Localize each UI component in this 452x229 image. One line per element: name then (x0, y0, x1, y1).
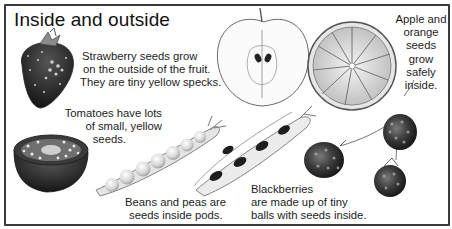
caption-line: seeds (394, 39, 448, 52)
apple-illustration (217, 8, 308, 106)
apple-orange-caption: Apple and orange seeds grow safely insid… (394, 13, 448, 92)
caption-line: seeds inside pods. (125, 209, 226, 222)
page-title: Inside and outside (14, 9, 170, 31)
caption-line: safely (394, 66, 448, 79)
caption-line: grow (394, 53, 448, 66)
caption-line: seeds. (58, 133, 162, 146)
strawberry-caption: Strawberry seeds grow on the outside of … (82, 50, 221, 90)
orange-illustration (308, 22, 396, 110)
caption-line: orange (394, 26, 448, 39)
caption-line: inside. (394, 79, 448, 92)
caption-line: balls with seeds inside. (251, 209, 367, 222)
caption-line: Apple and (394, 13, 448, 26)
caption-line: Beans and peas are (125, 196, 226, 209)
caption-line: Blackberries (251, 183, 367, 196)
tomato-caption: Tomatoes have lots of small, yellow seed… (58, 107, 162, 147)
caption-line: Tomatoes have lots (58, 107, 162, 120)
caption-line: of small, yellow (58, 120, 162, 133)
beans-peas-caption: Beans and peas are seeds inside pods. (125, 196, 226, 222)
caption-line: are made up of tiny (251, 196, 367, 209)
caption-line: on the outside of the fruit. (82, 63, 221, 76)
caption-line: Strawberry seeds grow (82, 50, 221, 63)
strawberry-illustration (21, 28, 73, 108)
blackberries-caption: Blackberries are made up of tiny balls w… (251, 183, 367, 223)
caption-line: They are tiny yellow specks. (80, 76, 221, 89)
